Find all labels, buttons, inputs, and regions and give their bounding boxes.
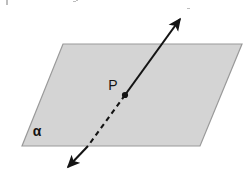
plane-alpha [22,44,242,146]
plane-alpha-label: α [33,123,42,139]
scan-speck [187,8,190,9]
scan-speck [6,0,8,5]
scan-speck [73,1,76,2]
point-p-marker [122,92,128,98]
line-lower-segment [68,146,88,167]
point-p-label: P [108,77,117,93]
figure-canvas: P α [0,0,249,189]
scan-speck [76,0,78,1]
geometry-figure: P α [0,0,249,189]
